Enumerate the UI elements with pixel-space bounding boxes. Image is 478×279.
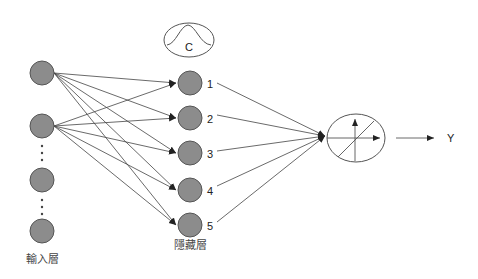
hidden-node-3 (178, 141, 202, 165)
hidden-layer: 1 2 3 4 5 隱藏層 (174, 71, 214, 252)
input-node-3 (30, 168, 54, 192)
hidden-node-5-label: 5 (207, 220, 213, 232)
input-node-1 (30, 61, 54, 85)
output-label: Y (447, 132, 455, 144)
hidden-node-4 (178, 178, 202, 202)
input-node-n (30, 219, 54, 243)
kernel-label: C (185, 41, 193, 53)
hidden-node-1 (178, 71, 202, 95)
input-layer: 輸入層 (26, 61, 59, 266)
output: Y (396, 132, 455, 144)
input-to-hidden-edges (54, 73, 176, 225)
gaussian-kernel-icon: C (164, 23, 214, 57)
hidden-node-5 (178, 213, 202, 237)
hidden-node-3-label: 3 (207, 148, 213, 160)
hidden-node-2-label: 2 (207, 113, 213, 125)
input-layer-label: 輸入層 (26, 252, 59, 266)
hidden-layer-label: 隱藏層 (174, 238, 207, 252)
hidden-node-4-label: 4 (207, 185, 213, 197)
hidden-node-1-label: 1 (207, 78, 213, 90)
hidden-node-2 (178, 106, 202, 130)
output-unit (327, 114, 385, 162)
rbf-network-diagram: 輸入層 C 1 2 3 4 5 隱藏層 Y (0, 0, 478, 279)
input-node-2 (30, 114, 54, 138)
hidden-to-output-edges (217, 83, 325, 222)
